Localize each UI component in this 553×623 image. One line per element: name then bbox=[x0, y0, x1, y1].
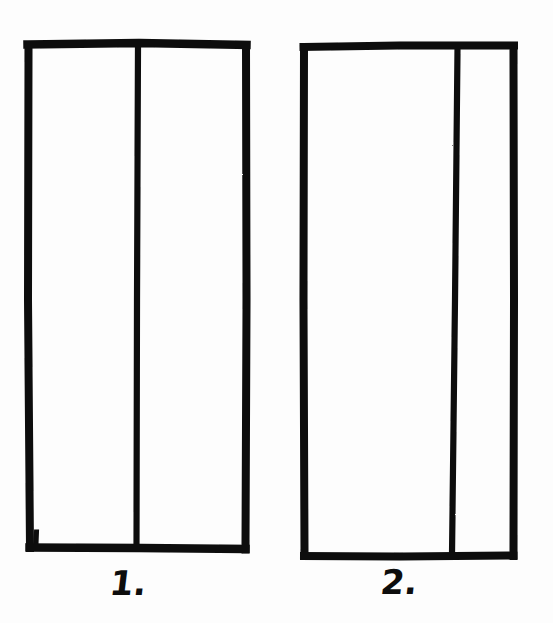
rectangle-1-divider bbox=[137, 46, 139, 546]
hand-drawn-figure bbox=[0, 0, 553, 623]
shape-label-2: 2. bbox=[379, 562, 420, 602]
drawing-canvas: 1. 2. bbox=[0, 0, 553, 623]
shape-label-1: 1. bbox=[108, 563, 149, 603]
rectangle-2-divider bbox=[452, 48, 458, 554]
rectangle-2-outline bbox=[304, 46, 515, 557]
